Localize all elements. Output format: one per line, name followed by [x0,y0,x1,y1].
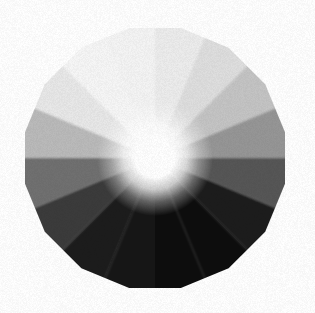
radial-sector-wheel [0,0,315,313]
figure-canvas [0,0,315,313]
center-highlight-hub [97,100,213,216]
